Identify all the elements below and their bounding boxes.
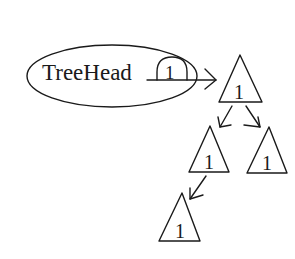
left-node-label: 1 xyxy=(204,151,214,173)
tree-diagram: TreeHead 1 1 1 1 1 xyxy=(0,0,295,259)
arrowhead-icon xyxy=(205,69,216,89)
head-count: 1 xyxy=(165,62,175,83)
diagram-svg: TreeHead 1 1 1 1 1 xyxy=(0,0,295,259)
tree-head-label: TreeHead xyxy=(42,60,132,85)
leftleft-node-label: 1 xyxy=(175,220,185,242)
right-node-label: 1 xyxy=(262,152,272,174)
edge-left-leftleft xyxy=(190,176,206,199)
root-node-label: 1 xyxy=(234,81,244,103)
edge-root-left xyxy=(220,106,232,127)
